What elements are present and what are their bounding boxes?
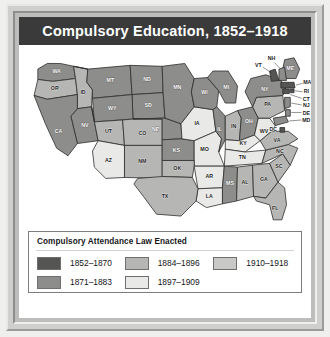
state-label-WV: WV [260,128,269,134]
leader-line-NH [274,63,280,69]
leader-line-MD [289,120,301,121]
legend-swatch-1910-1918 [213,257,237,270]
map-legend: Compulsory Attendance Law Enacted 1852–1… [28,231,302,293]
state-label-MA: MA [303,79,311,85]
legend-swatch-1884-1896 [125,257,149,270]
state-label-NY: NY [261,86,269,92]
leader-line-MA [296,83,303,85]
legend-column-1: 1852–1870 1871–1883 [37,256,125,289]
state-label-OK: OK [173,165,181,171]
legend-swatch-1871-1883 [37,276,61,289]
state-VT[interactable] [270,69,279,81]
state-label-NC: NC [276,148,284,154]
state-RI[interactable] [290,89,294,93]
state-label-CT: CT [303,96,311,102]
state-label-KY: KY [240,140,248,146]
state-NJ[interactable] [285,97,291,108]
state-DC[interactable] [280,128,285,133]
state-label-SC: SC [275,163,283,169]
state-label-FL: FL [272,205,279,211]
state-label-GA: GA [260,176,268,182]
state-label-IL: IL [217,126,222,132]
state-label-CA: CA [55,128,63,134]
state-CT[interactable] [283,89,290,94]
legend-label: 1910–1918 [246,258,288,268]
state-label-SD: SD [144,102,152,108]
state-label-KS: KS [173,147,181,153]
legend-column-3: 1910–1918 [213,256,301,289]
legend-label: 1852–1870 [70,258,112,268]
title-bar: Compulsory Education, 1852–1918 [19,17,311,45]
state-CA[interactable] [34,95,77,156]
leader-line-NJ [291,103,301,105]
state-label-NE: NE [152,126,160,132]
state-MD[interactable] [273,116,288,125]
state-label-MD: MD [302,117,310,123]
legend-item[interactable]: 1897–1909 [125,275,214,289]
legend-item[interactable]: 1871–1883 [37,275,125,289]
poster-inner-frame: Compulsory Education, 1852–1918 [13,11,317,324]
state-label-NJ: NJ [303,102,310,108]
state-label-ME: ME [286,65,294,71]
state-label-MO: MO [200,146,208,152]
state-label-DC: DC [270,126,278,132]
state-label-NH: NH [268,55,276,61]
state-label-MS: MS [226,180,234,186]
legend-swatch-1852-1870 [37,257,61,270]
state-label-ND: ND [143,76,151,82]
state-label-NV: NV [81,122,89,128]
state-label-WI: WI [201,89,208,95]
legend-heading: Compulsory Attendance Law Enacted [37,237,301,246]
poster-page: Compulsory Education, 1852–1918 [19,17,311,318]
us-choropleth-map: WA OR ID MT ND SD WY NV CA UT CO AZ NM N… [19,45,311,227]
state-label-IA: IA [194,120,199,126]
map-svg: WA OR ID MT ND SD WY NV CA UT CO AZ NM N… [19,45,311,227]
state-label-UT: UT [105,128,113,134]
state-label-DE: DE [303,110,311,116]
state-label-NM: NM [138,158,147,164]
legend-item[interactable]: 1852–1870 [37,256,125,270]
state-label-ID: ID [80,89,85,95]
state-MA[interactable] [281,82,295,88]
legend-label: 1884–1896 [158,258,200,268]
state-label-CO: CO [138,130,146,136]
state-label-AR: AR [205,173,213,179]
legend-label: 1871–1883 [70,277,112,287]
legend-columns: 1852–1870 1871–1883 1884–1896 1897–1909 [37,256,301,289]
state-label-TN: TN [239,154,246,160]
state-label-RI: RI [304,88,310,94]
state-label-VT: VT [255,62,263,68]
page-title: Compulsory Education, 1852–1918 [42,23,288,39]
legend-item[interactable]: 1910–1918 [213,256,301,270]
state-label-PA: PA [264,101,271,107]
state-DE[interactable] [286,110,291,117]
state-label-OH: OH [245,118,253,124]
state-label-OR: OR [51,85,59,91]
state-label-MT: MT [107,77,115,83]
legend-divider [36,250,294,251]
state-label-WY: WY [108,105,117,111]
state-label-AZ: AZ [105,157,113,163]
poster-outer-frame: Compulsory Education, 1852–1918 [6,4,324,331]
legend-label: 1897–1909 [158,277,200,287]
legend-item[interactable]: 1884–1896 [125,256,214,270]
state-label-IN: IN [231,123,236,129]
state-label-LA: LA [206,193,213,199]
state-label-MI: MI [223,84,229,90]
leader-line-VT [263,67,271,73]
leader-line-CT [290,95,301,99]
state-label-WA: WA [52,68,61,74]
legend-swatch-1897-1909 [125,276,149,289]
state-label-VA: VA [274,137,281,143]
legend-column-2: 1884–1896 1897–1909 [125,256,214,289]
state-label-AL: AL [242,179,250,185]
state-label-MN: MN [173,84,181,90]
leader-line-RI [295,91,303,92]
state-label-TX: TX [162,193,169,199]
